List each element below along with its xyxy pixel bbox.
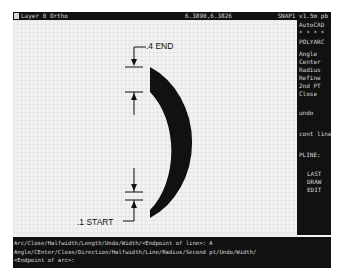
screen-menu: AutoCAD * * * * POLYARC Angle Center Rad…	[297, 20, 331, 235]
menu-item-radius[interactable]: Radius	[299, 66, 321, 74]
menu-item-separator[interactable]: * * * *	[299, 29, 324, 37]
menu-item-center[interactable]: Center	[299, 58, 321, 66]
end-arrow-bottom-icon	[131, 93, 137, 100]
tapered-polyline-arc[interactable]	[150, 67, 192, 218]
start-arrow-bottom-icon	[131, 201, 137, 208]
start-label: .1 START	[77, 217, 114, 227]
menu-item-cont-line[interactable]: cont line	[299, 130, 332, 138]
menu-item-edit[interactable]: EDIT	[307, 186, 321, 194]
menu-item-angle[interactable]: Angle	[299, 50, 317, 58]
menu-item-pline[interactable]: PLINE:	[299, 151, 321, 159]
menu-item-close[interactable]: Close	[299, 90, 317, 98]
menu-item-last[interactable]: LAST	[307, 170, 321, 178]
end-label: .4 END	[146, 41, 173, 51]
menu-item-2nd-pt[interactable]: 2nd PT	[299, 82, 321, 90]
command-line-1: Arc/Close/Halfwidth/Length/Undo/Width/<E…	[14, 239, 331, 248]
drawing-svg: .4 END .1 START	[0, 0, 343, 275]
menu-item-undo[interactable]: undo	[299, 109, 313, 117]
command-line-2: Angle/CEnter/Close/Direction/Halfwidth/L…	[14, 248, 331, 257]
menu-item-refine[interactable]: Refine	[299, 74, 321, 82]
menu-item-autocad[interactable]: AutoCAD	[299, 21, 324, 29]
end-arrow-top-icon	[131, 59, 137, 66]
end-width-dimension	[125, 47, 146, 115]
command-prompt[interactable]: <Endpoint of arc>:	[14, 256, 331, 265]
command-line[interactable]: Arc/Close/Halfwidth/Length/Undo/Width/<E…	[13, 237, 331, 268]
start-width-dimension	[123, 168, 143, 221]
menu-item-draw[interactable]: DRAW	[307, 178, 321, 186]
menu-item-polyarc: POLYARC	[299, 38, 324, 46]
start-arrow-top-icon	[131, 184, 137, 191]
